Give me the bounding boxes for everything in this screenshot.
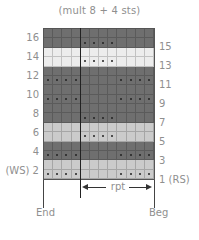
stitch-cell-r16-c8 (108, 29, 117, 38)
stitch-cell-r5-c8 (108, 132, 117, 141)
stitch-cell-r12-c11 (136, 67, 145, 76)
stitch-cell-r12-c5 (81, 67, 90, 76)
stitch-cell-r15-c10 (127, 38, 136, 47)
stitch-cell-r16-c11 (136, 29, 145, 38)
stitch-cell-r14-c3 (62, 48, 71, 57)
stitch-cell-r1-c1 (44, 170, 53, 179)
stitch-cell-r4-c11 (136, 142, 145, 151)
stitch-cell-r11-c10 (127, 76, 136, 85)
beg-label: Beg (149, 207, 168, 218)
stitch-cell-r7-c7 (99, 113, 108, 122)
stitch-cell-r7-c2 (53, 113, 62, 122)
stitch-cell-r2-c2 (53, 160, 62, 169)
stitch-cell-r11-c9 (117, 76, 126, 85)
stitch-cell-r1-c5 (81, 170, 90, 179)
stitch-cell-r5-c2 (53, 132, 62, 141)
stitch-cell-r11-c6 (90, 76, 99, 85)
stitch-cell-r13-c11 (136, 57, 145, 66)
stitch-cell-r1-c3 (62, 170, 71, 179)
stitch-cell-r11-c8 (108, 76, 117, 85)
stitch-cell-r14-c10 (127, 48, 136, 57)
stitch-cell-r3-c11 (136, 151, 145, 160)
stitch-cell-r15-c6 (90, 38, 99, 47)
stitch-cell-r7-c1 (44, 113, 53, 122)
stitch-cell-r11-c12 (145, 76, 154, 85)
stitch-cell-r9-c3 (62, 95, 71, 104)
stitch-cell-r14-c6 (90, 48, 99, 57)
stitch-cell-r14-c1 (44, 48, 53, 57)
stitch-cell-r6-c8 (108, 123, 117, 132)
stitch-cell-r12-c9 (117, 67, 126, 76)
stitch-cell-r5-c9 (117, 132, 126, 141)
stitch-cell-r3-c7 (99, 151, 108, 160)
stitch-chart-grid (43, 28, 155, 180)
stitch-cell-r6-c1 (44, 123, 53, 132)
stitch-cell-r3-c8 (108, 151, 117, 160)
stitch-cell-r3-c1 (44, 151, 53, 160)
stitch-cell-r4-c8 (108, 142, 117, 151)
stitch-cell-r15-c2 (53, 38, 62, 47)
row-label-12: 12 (26, 71, 39, 81)
stitch-cell-r7-c3 (62, 113, 71, 122)
row-label-16: 16 (26, 33, 39, 43)
stitch-cell-r5-c12 (145, 132, 154, 141)
stitch-cell-r14-c8 (108, 48, 117, 57)
stitch-cell-r16-c9 (117, 29, 126, 38)
stitch-cell-r16-c1 (44, 29, 53, 38)
stitch-cell-r15-c11 (136, 38, 145, 47)
stitch-cell-r9-c1 (44, 95, 53, 104)
stitch-cell-r15-c9 (117, 38, 126, 47)
stitch-cell-r12-c10 (127, 67, 136, 76)
stitch-cell-r2-c9 (117, 160, 126, 169)
stitch-cell-r10-c7 (99, 85, 108, 94)
stitch-cell-r7-c9 (117, 113, 126, 122)
stitch-cell-r5-c11 (136, 132, 145, 141)
stitch-cell-r3-c6 (90, 151, 99, 160)
stitch-cell-r15-c3 (62, 38, 71, 47)
stitch-cell-r2-c10 (127, 160, 136, 169)
stitch-cell-r11-c11 (136, 76, 145, 85)
stitch-cell-r4-c6 (90, 142, 99, 151)
stitch-cell-r8-c1 (44, 104, 53, 113)
repeat-divider-line (80, 28, 81, 198)
row-label-11: 11 (159, 80, 172, 90)
stitch-cell-r15-c7 (99, 38, 108, 47)
stitch-cell-r14-c5 (81, 48, 90, 57)
stitch-cell-r5-c7 (99, 132, 108, 141)
stitch-cell-r12-c1 (44, 67, 53, 76)
stitch-cell-r15-c12 (145, 38, 154, 47)
stitch-cell-r2-c7 (99, 160, 108, 169)
repeat-indicator: rpt (82, 181, 154, 193)
row-label-10: 10 (26, 90, 39, 100)
stitch-cell-r16-c3 (62, 29, 71, 38)
stitch-cell-r3-c2 (53, 151, 62, 160)
stitch-cell-r2-c3 (62, 160, 71, 169)
stitch-cell-r4-c7 (99, 142, 108, 151)
stitch-cell-r14-c12 (145, 48, 154, 57)
stitch-cell-r4-c5 (81, 142, 90, 151)
stitch-cell-r12-c7 (99, 67, 108, 76)
stitch-cell-r1-c8 (108, 170, 117, 179)
stitch-cell-r10-c9 (117, 85, 126, 94)
row-label-9: 9 (159, 99, 165, 109)
stitch-cell-r3-c5 (81, 151, 90, 160)
row-label-5: 5 (159, 137, 165, 147)
stitch-cell-r6-c7 (99, 123, 108, 132)
stitch-cell-r6-c10 (127, 123, 136, 132)
stitch-cell-r9-c2 (53, 95, 62, 104)
stitch-cell-r11-c3 (62, 76, 71, 85)
stitch-cell-r4-c1 (44, 142, 53, 151)
stitch-cell-r1-c11 (136, 170, 145, 179)
stitch-cell-r15-c8 (108, 38, 117, 47)
stitch-cell-r2-c11 (136, 160, 145, 169)
stitch-cell-r13-c2 (53, 57, 62, 66)
stitch-cell-r7-c10 (127, 113, 136, 122)
stitch-cell-r13-c12 (145, 57, 154, 66)
end-edge-line (43, 180, 44, 208)
stitch-cell-r12-c6 (90, 67, 99, 76)
stitch-cell-r12-c2 (53, 67, 62, 76)
stitch-cell-r14-c9 (117, 48, 126, 57)
stitch-cell-r4-c10 (127, 142, 136, 151)
stitch-cell-r6-c2 (53, 123, 62, 132)
stitch-cell-r6-c9 (117, 123, 126, 132)
